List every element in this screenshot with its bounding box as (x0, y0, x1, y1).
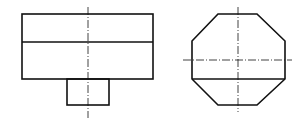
technical-drawing (0, 0, 302, 127)
side-view (183, 7, 292, 112)
side-view-octagon (192, 14, 285, 105)
front-view (22, 7, 153, 118)
front-view-outline (22, 14, 153, 79)
